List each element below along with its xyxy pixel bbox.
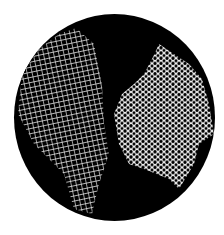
microscope-field-of-view: Circular black field of view showing two… [14, 14, 215, 221]
cork-cell-illustration [14, 14, 215, 221]
left-tissue-strip [18, 28, 109, 214]
right-tissue-patch [114, 44, 214, 189]
